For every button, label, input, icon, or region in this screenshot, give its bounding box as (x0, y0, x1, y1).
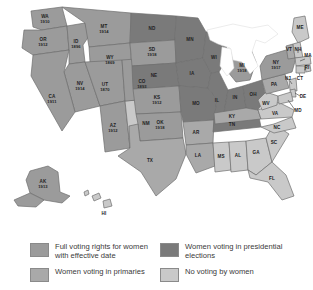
label-MO: MO (192, 101, 200, 106)
legend-item-presidential[interactable]: Women voting in presidential elections (160, 242, 302, 261)
label-SC: SC (271, 140, 278, 145)
legend-swatch-no-voting (160, 268, 179, 282)
legend-item-primaries[interactable]: Women voting in primaries (30, 267, 150, 282)
label-NJ: NJ (285, 76, 291, 81)
label-TX: TX (147, 158, 154, 163)
label-MS: MS (217, 154, 224, 159)
label-NC: NC (274, 125, 281, 130)
label-FL: FL (269, 176, 275, 181)
label-IN: IN (233, 95, 238, 100)
us-map-svg: WA1910 OR1912 ID1896 MT1914 WY1869 NV191… (0, 0, 313, 236)
label-LA: LA (195, 153, 202, 158)
suffrage-map-infographic: WA1910 OR1912 ID1896 MT1914 WY1869 NV191… (0, 0, 313, 290)
map-legend: Full voting rights for women with effect… (0, 236, 313, 290)
label-IA: IA (190, 71, 195, 76)
label-MD: MD (294, 108, 302, 113)
label-VT: VT (286, 47, 292, 52)
label-MA: MA (304, 53, 312, 58)
label-ME: ME (296, 25, 303, 30)
legend-swatch-presidential-elections (160, 243, 179, 257)
state-MD[interactable] (278, 92, 293, 104)
legend-swatch-primaries (30, 268, 49, 282)
label-WV: WV (262, 101, 270, 106)
label-CT: CT (297, 76, 303, 81)
label-VA: VA (272, 111, 279, 116)
label-AL: AL (235, 153, 241, 158)
legend-item-full[interactable]: Full voting rights for women with effect… (30, 242, 150, 261)
label-MN: MN (186, 37, 194, 42)
label-IL: IL (215, 98, 219, 103)
label-PA: PA (271, 82, 278, 87)
label-NE: NE (151, 73, 158, 78)
legend-label-primaries: Women voting in primaries (55, 267, 145, 276)
label-KY: KY (229, 114, 236, 119)
label-ND: ND (149, 26, 156, 31)
state-HI-3[interactable] (103, 199, 112, 208)
state-HI[interactable] (84, 190, 89, 196)
label-HI: HI (102, 211, 107, 216)
label-AR: AR (193, 130, 200, 135)
label-GA: GA (252, 150, 260, 155)
label-WI: WI (211, 55, 217, 60)
map-area: WA1910 OR1912 ID1896 MT1914 WY1869 NV191… (0, 0, 313, 236)
legend-label-full-voting-rights: Full voting rights for women with effect… (55, 242, 150, 261)
state-HI-2[interactable] (92, 193, 101, 201)
label-DE: DE (300, 94, 307, 99)
legend-item-no-voting[interactable]: No voting by women (160, 267, 302, 282)
legend-swatch-full-voting-rights (30, 243, 49, 257)
label-OH: OH (249, 92, 257, 97)
label-NM: NM (142, 121, 149, 126)
legend-label-no-voting: No voting by women (185, 267, 254, 276)
legend-label-presidential-elections: Women voting in presidential elections (185, 242, 302, 261)
state-CA[interactable] (31, 50, 75, 131)
label-TN: TN (229, 122, 236, 127)
